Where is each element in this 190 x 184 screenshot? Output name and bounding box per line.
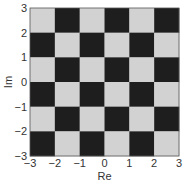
y-tick-label: −2 xyxy=(14,125,27,137)
checker-cell xyxy=(80,82,105,107)
y-tick-label: −3 xyxy=(14,150,27,162)
checker-cell xyxy=(129,57,154,82)
x-tick-label: 0 xyxy=(101,157,107,169)
y-tick-label: 0 xyxy=(21,76,27,88)
y-tick-label: −1 xyxy=(14,101,27,113)
checker-cell xyxy=(129,131,154,156)
x-tick-labels: −3−2−10123 xyxy=(24,157,182,169)
checker-cell xyxy=(105,107,130,132)
x-tick-label: −2 xyxy=(49,157,62,169)
checker-cell xyxy=(129,82,154,107)
checker-cell xyxy=(30,57,55,82)
checker-cell xyxy=(105,57,130,82)
checker-cell xyxy=(55,82,80,107)
checker-cell xyxy=(55,131,80,156)
y-tick-label: 3 xyxy=(21,2,27,14)
checker-cell xyxy=(129,107,154,132)
checker-cell xyxy=(154,82,179,107)
x-tick-label: 2 xyxy=(151,157,157,169)
checker-cell xyxy=(30,131,55,156)
checker-cell xyxy=(105,33,130,58)
y-axis-label: Im xyxy=(2,76,14,88)
x-tick-label: 3 xyxy=(176,157,182,169)
x-axis-label: Re xyxy=(97,170,111,182)
checker-cell xyxy=(129,8,154,33)
checker-cell xyxy=(55,107,80,132)
checker-cell xyxy=(30,8,55,33)
checkerboard-chart: −3−2−10123 −3−2−10123 Re Im xyxy=(0,0,190,184)
checker-cell xyxy=(80,33,105,58)
plot-cells xyxy=(30,8,179,156)
checker-cell xyxy=(30,82,55,107)
checker-cell xyxy=(154,8,179,33)
y-tick-labels: −3−2−10123 xyxy=(14,2,27,162)
x-tick-label: 1 xyxy=(126,157,132,169)
checker-cell xyxy=(105,82,130,107)
checker-cell xyxy=(80,131,105,156)
checker-cell xyxy=(30,33,55,58)
checker-cell xyxy=(129,33,154,58)
checker-cell xyxy=(154,33,179,58)
checker-cell xyxy=(30,107,55,132)
y-tick-label: 1 xyxy=(21,51,27,63)
checker-cell xyxy=(154,107,179,132)
checker-cell xyxy=(55,33,80,58)
checker-cell xyxy=(154,131,179,156)
checker-cell xyxy=(80,57,105,82)
checker-cell xyxy=(154,57,179,82)
x-tick-label: −1 xyxy=(73,157,86,169)
checker-cell xyxy=(80,8,105,33)
checker-cell xyxy=(80,107,105,132)
checker-cell xyxy=(105,8,130,33)
checker-cell xyxy=(105,131,130,156)
checker-cell xyxy=(55,57,80,82)
y-tick-label: 2 xyxy=(21,27,27,39)
checker-cell xyxy=(55,8,80,33)
